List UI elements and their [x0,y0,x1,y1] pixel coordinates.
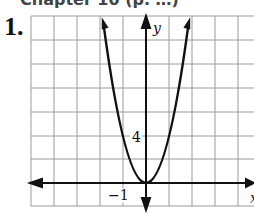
y-axis-down-arrow-icon [142,198,150,210]
x-tick-label-neg1: −1 [108,187,129,203]
parabola-graph: y x 4 −1 [0,0,254,213]
y-tick-label-4: 4 [132,129,141,145]
x-axis-right-arrow-icon [246,179,254,187]
grid [31,16,254,206]
x-axis-label: x [250,190,254,206]
x-axis-left-arrow-icon [30,179,42,187]
y-axis-label: y [152,20,162,36]
y-axis-up-arrow-icon [142,16,150,28]
